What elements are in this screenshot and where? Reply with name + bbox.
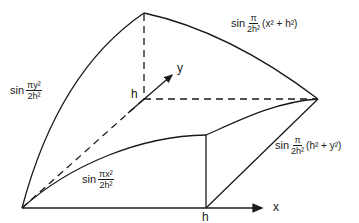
formula-numerator: π <box>293 135 301 146</box>
formula-numerator: πx² <box>98 169 114 180</box>
x-axis-label: x <box>273 201 279 213</box>
formula-bottom-curve: sin πx² 2h² <box>82 169 116 190</box>
formula-right-face: sin π 2h² (h² + y²) <box>275 135 341 156</box>
formula-fn: sin <box>82 174 96 185</box>
formula-fraction: πx² 2h² <box>98 169 114 190</box>
formula-denominator: 2h² <box>291 146 304 156</box>
diagram-canvas <box>0 0 359 223</box>
formula-denominator: 2h² <box>99 180 112 190</box>
right-top-curve <box>206 99 318 135</box>
surface-diagram: x y h h sin πy² 2h² sin πx² 2h² sin π 2h… <box>0 0 359 223</box>
formula-top-right-edge: sin π 2h² (x² + h²) <box>231 13 297 34</box>
formula-numerator: πy² <box>26 80 42 91</box>
formula-fn: sin <box>231 18 245 29</box>
y-tick-h-label: h <box>131 88 138 100</box>
formula-fraction: π 2h² <box>247 13 260 34</box>
formula-argument: (x² + h²) <box>262 19 297 29</box>
formula-fraction: π 2h² <box>291 135 304 156</box>
formula-fraction: πy² 2h² <box>26 80 42 101</box>
y-axis-label: y <box>177 62 183 74</box>
x-tick-h-label: h <box>202 211 209 223</box>
formula-left-edge: sin πy² 2h² <box>10 80 44 101</box>
formula-argument: (h² + y²) <box>306 141 341 151</box>
formula-fn: sin <box>275 140 289 151</box>
formula-fn: sin <box>10 85 24 96</box>
formula-denominator: 2h² <box>27 91 40 101</box>
formula-numerator: π <box>249 13 257 24</box>
formula-denominator: 2h² <box>247 24 260 34</box>
